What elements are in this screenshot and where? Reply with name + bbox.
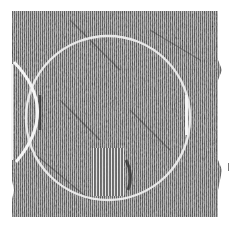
right-vertical-stripe: [185, 95, 188, 135]
right-edge-mark: [228, 163, 229, 171]
bottom-striped-patch: [92, 148, 124, 196]
texture-block: [0, 0, 231, 225]
dithered-texture-image: [0, 0, 231, 225]
